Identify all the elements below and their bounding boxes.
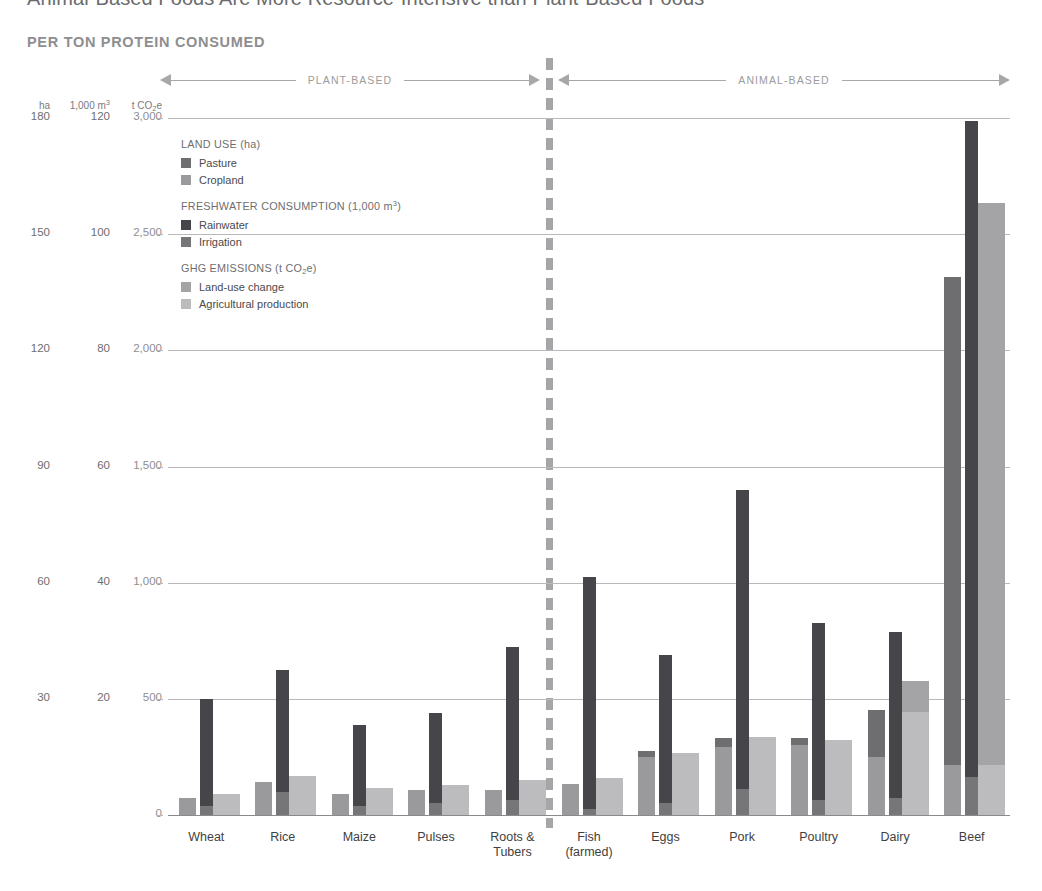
legend-label: Agricultural production [199,298,308,310]
band-animal-based: ANIMAL-BASED [558,72,1010,88]
legend-heading: GHG EMISSIONS (t CO2e) [181,262,431,274]
legend-label: Irrigation [199,236,242,248]
arrow-right-icon [529,74,540,86]
legend-item[interactable]: Irrigation [181,234,431,249]
y-tick-ghg: 0 [118,807,162,819]
tick-mark [156,699,163,700]
legend-heading: FRESHWATER CONSUMPTION (1,000 m3) [181,200,431,212]
y-tick-ghg: 1,000 [118,575,162,587]
bar-segment-top [944,277,961,765]
y-tick-water: 40 [62,575,110,587]
y-tick-water: 20 [62,691,110,703]
legend-label: Rainwater [199,219,249,231]
y-tick-water: 120 [62,110,110,122]
legend-label: Land-use change [199,281,284,293]
tick-mark [156,467,163,468]
arrow-left-icon [160,74,171,86]
chart-legend: LAND USE (ha)PastureCroplandFRESHWATER C… [181,138,431,313]
tick-mark [156,815,163,816]
y-tick-water: 80 [62,342,110,354]
band-rule [171,80,296,81]
x-axis-label-line: Beef [917,830,1027,845]
bar-ghg [978,203,1005,815]
bar-segment-top [978,203,1005,765]
legend-label: Pasture [199,157,237,169]
legend-item[interactable]: Cropland [181,172,431,187]
page-subtitle: PER TON PROTEIN CONSUMED [27,34,265,50]
x-axis-label-line: (farmed) [534,845,644,860]
tick-mark [156,234,163,235]
legend-heading: LAND USE (ha) [181,138,431,150]
legend-label: Cropland [199,174,244,186]
y-tick-ghg: 2,000 [118,342,162,354]
y-tick-ha: 120 [24,342,50,354]
band-rule [404,80,529,81]
legend-swatch [181,299,191,309]
y-tick-ha: 30 [24,691,50,703]
legend-item[interactable]: Rainwater [181,217,431,232]
legend-item[interactable]: Pasture [181,155,431,170]
band-rule [842,80,999,81]
y-tick-ha: 180 [24,110,50,122]
bar-land-use [944,277,961,815]
legend-swatch [181,220,191,230]
x-axis-label: Beef [917,830,1027,845]
legend-swatch [181,237,191,247]
band-plant-label: PLANT-BASED [296,74,404,86]
tick-mark [156,583,163,584]
y-tick-ha: 90 [24,459,50,471]
bar-segment-top [965,121,978,777]
legend-swatch [181,158,191,168]
page-title: Animal-Based Foods Are More Resource-Int… [27,0,704,10]
y-tick-ha: 150 [24,226,50,238]
bar-freshwater [965,121,978,815]
bar-segment-bottom [965,777,978,815]
tick-mark [156,118,163,119]
y-tick-water: 60 [62,459,110,471]
arrow-left-icon [558,74,569,86]
band-rule [569,80,726,81]
arrow-right-icon [999,74,1010,86]
legend-swatch [181,175,191,185]
legend-item[interactable]: Land-use change [181,279,431,294]
y-tick-ghg: 2,500 [118,226,162,238]
x-axis-baseline [168,815,1010,816]
y-tick-ghg: 500 [118,691,162,703]
y-tick-ghg: 1,500 [118,459,162,471]
y-tick-water: 100 [62,226,110,238]
band-plant-based: PLANT-BASED [160,72,540,88]
legend-swatch [181,282,191,292]
tick-mark [156,350,163,351]
y-tick-ha: 60 [24,575,50,587]
y-tick-ghg: 3,000 [118,110,162,122]
bar-segment-bottom [978,765,1005,815]
band-animal-label: ANIMAL-BASED [726,74,841,86]
bar-segment-bottom [944,765,961,815]
legend-item[interactable]: Agricultural production [181,296,431,311]
